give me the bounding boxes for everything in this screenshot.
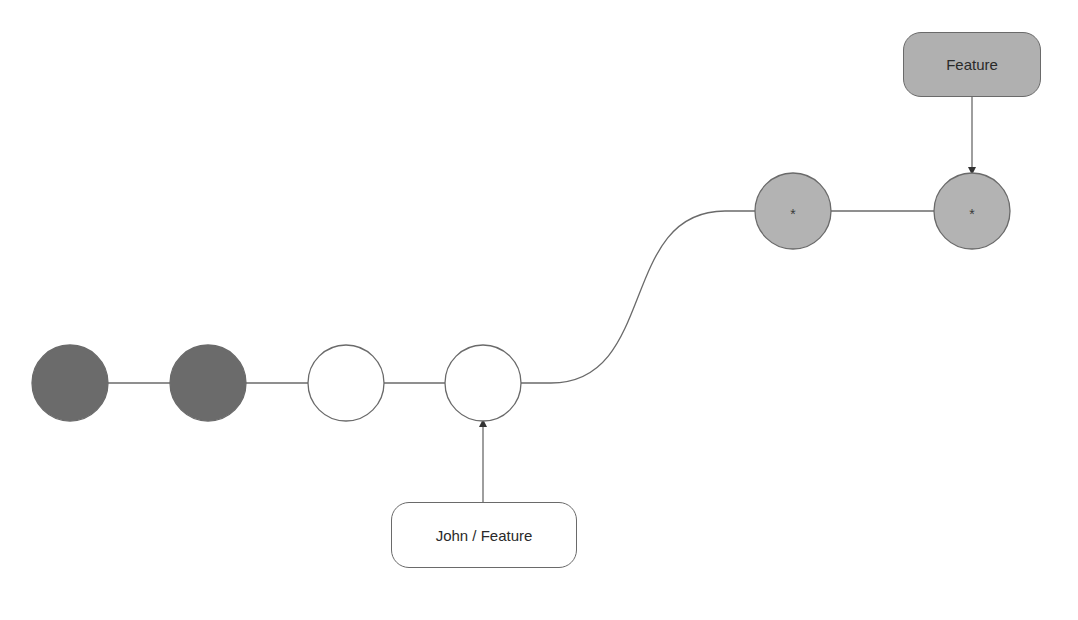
commit-node-c2 — [170, 345, 246, 421]
branch-label-john-feature-text: John / Feature — [436, 527, 533, 544]
commit-star-icon: * — [783, 204, 803, 224]
commits-layer — [32, 173, 1010, 421]
branch-label-feature-text: Feature — [946, 56, 998, 73]
branch-label-feature: Feature — [903, 32, 1041, 97]
branch-label-john-feature: John / Feature — [391, 502, 577, 568]
commit-star-icon: * — [962, 204, 982, 224]
commit-node-c3 — [308, 345, 384, 421]
commit-node-c1 — [32, 345, 108, 421]
edge-c4-c5 — [521, 211, 755, 383]
commit-node-c4 — [445, 345, 521, 421]
arrows-layer — [483, 97, 972, 502]
